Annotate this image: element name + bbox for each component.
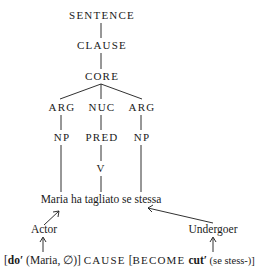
node-np-1: NP <box>54 131 70 143</box>
sentence-text: Maria ha tagliato se stessa <box>41 193 162 206</box>
arrow-undergoer-to-sestessa <box>148 208 213 223</box>
node-sentence: SENTENCE <box>69 9 135 21</box>
edge-core-arg1 <box>60 84 101 99</box>
node-nuc: NUC <box>89 101 116 113</box>
node-arg-1: ARG <box>49 101 76 113</box>
node-core: CORE <box>85 70 119 82</box>
node-pred: PRED <box>86 131 119 143</box>
logical-structure: [do′ (Maria, ∅)] CAUSE [BECOME cut′ (se … <box>4 254 255 267</box>
node-clause: CLAUSE <box>77 39 127 51</box>
node-arg-2: ARG <box>129 101 156 113</box>
edge-core-arg2 <box>101 84 142 99</box>
semantic-tree-diagram: SENTENCE CLAUSE CORE ARG NUC ARG NP PRED… <box>0 0 263 276</box>
node-v: V <box>96 162 105 174</box>
role-actor: Actor <box>31 223 57 235</box>
role-undergoer: Undergoer <box>189 223 238 236</box>
node-np-2: NP <box>134 131 150 143</box>
